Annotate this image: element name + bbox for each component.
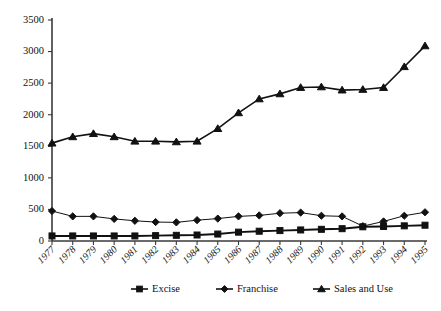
x-tick-label: 1986 <box>221 244 243 266</box>
marker-square <box>339 226 345 232</box>
marker-square <box>153 233 159 239</box>
marker-diamond <box>235 213 242 220</box>
x-tick-label: 1983 <box>159 244 181 266</box>
series-layer <box>48 42 429 239</box>
x-tick-label: 1980 <box>97 244 119 266</box>
marker-square <box>70 233 76 239</box>
y-tick-label: 1500 <box>23 140 44 151</box>
marker-diamond <box>421 209 428 216</box>
x-tick-label: 1985 <box>201 244 223 266</box>
x-axis: 1977197819791980198119821983198419851986… <box>35 241 430 266</box>
marker-diamond <box>152 218 159 225</box>
x-tick-label: 1987 <box>242 243 265 266</box>
marker-diamond <box>111 215 118 222</box>
legend-item-franchise: Franchise <box>216 283 278 294</box>
marker-diamond <box>193 217 200 224</box>
series-sales-and-use <box>48 42 429 146</box>
y-tick-label: 1000 <box>23 172 44 183</box>
y-tick-label: 0 <box>39 235 44 246</box>
marker-square <box>422 222 428 228</box>
legend-label: Sales and Use <box>334 283 393 294</box>
x-tick-label: 1978 <box>56 244 78 266</box>
marker-square <box>318 226 324 232</box>
x-tick-label: 1977 <box>35 243 58 266</box>
x-tick-label: 1993 <box>367 244 389 266</box>
chart-container: 0500100015002000250030003500 19771978197… <box>0 0 441 311</box>
x-tick-label: 1979 <box>76 244 98 266</box>
x-tick-label: 1995 <box>408 244 430 266</box>
y-tick-label: 500 <box>28 203 44 214</box>
marker-square <box>173 232 179 238</box>
marker-square <box>132 233 138 239</box>
y-tick-label: 2500 <box>23 77 44 88</box>
marker-square <box>137 286 143 292</box>
legend-item-excise: Excise <box>131 283 180 294</box>
x-tick-label: 1991 <box>325 244 347 266</box>
marker-square <box>236 229 242 235</box>
marker-diamond <box>173 219 180 226</box>
marker-square <box>194 232 200 238</box>
marker-diamond <box>221 286 228 293</box>
line-chart: 0500100015002000250030003500 19771978197… <box>0 0 441 311</box>
marker-diamond <box>256 212 263 219</box>
x-tick-label: 1981 <box>118 244 140 266</box>
marker-diamond <box>318 212 325 219</box>
marker-diamond <box>297 209 304 216</box>
marker-diamond <box>131 217 138 224</box>
x-tick-label: 1989 <box>284 244 306 266</box>
marker-square <box>401 223 407 229</box>
marker-diamond <box>339 213 346 220</box>
marker-diamond <box>276 210 283 217</box>
marker-square <box>49 233 55 239</box>
marker-square <box>90 233 96 239</box>
x-tick-label: 1990 <box>304 244 326 266</box>
y-axis: 0500100015002000250030003500 <box>23 14 52 246</box>
marker-square <box>298 227 304 233</box>
x-tick-label: 1992 <box>346 244 368 266</box>
marker-diamond <box>48 207 55 214</box>
marker-diamond <box>69 213 76 220</box>
marker-triangle <box>89 130 97 137</box>
x-tick-label: 1982 <box>139 244 161 266</box>
series-line <box>52 46 425 143</box>
legend-label: Franchise <box>237 283 278 294</box>
x-tick-label: 1994 <box>387 244 409 266</box>
x-tick-label: 1984 <box>180 244 202 266</box>
legend-label: Excise <box>152 283 180 294</box>
y-tick-label: 3500 <box>23 14 44 25</box>
marker-square <box>215 231 221 237</box>
marker-diamond <box>90 213 97 220</box>
x-tick-label: 1988 <box>263 244 285 266</box>
marker-square <box>111 233 117 239</box>
y-tick-label: 2000 <box>23 109 44 120</box>
marker-triangle <box>421 42 429 49</box>
y-tick-label: 3000 <box>23 45 44 56</box>
legend-item-sales-and-use: Sales and Use <box>313 283 393 294</box>
marker-square <box>256 228 262 234</box>
marker-diamond <box>401 212 408 219</box>
marker-diamond <box>214 215 221 222</box>
chart-legend: ExciseFranchiseSales and Use <box>131 283 393 294</box>
marker-square <box>277 228 283 234</box>
